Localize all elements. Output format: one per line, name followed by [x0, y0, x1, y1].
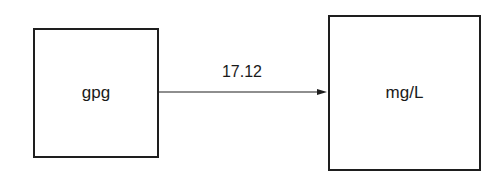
node-label: mg/L: [386, 83, 424, 103]
node-mgl: mg/L: [328, 15, 481, 171]
arrowhead-icon: [317, 89, 327, 95]
conversion-factor-label: 17.12: [212, 63, 272, 81]
